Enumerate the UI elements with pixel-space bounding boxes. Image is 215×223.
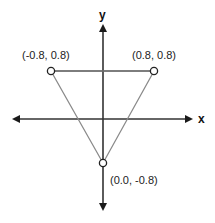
coordinate-diagram: y x (-0.8, 0.8) (0.8, 0.8) (0.0, -0.8) [0,0,215,223]
vertex-top-left-label: (-0.8, 0.8) [22,49,70,61]
vertex-top-right [150,67,157,74]
vertex-top-left [47,67,54,74]
vertex-bottom [99,159,106,166]
vertex-bottom-label: (0.0, -0.8) [110,174,158,186]
y-axis-label: y [99,8,106,22]
vertex-top-right-label: (0.8, 0.8) [132,49,176,61]
x-axis-label: x [198,112,205,126]
